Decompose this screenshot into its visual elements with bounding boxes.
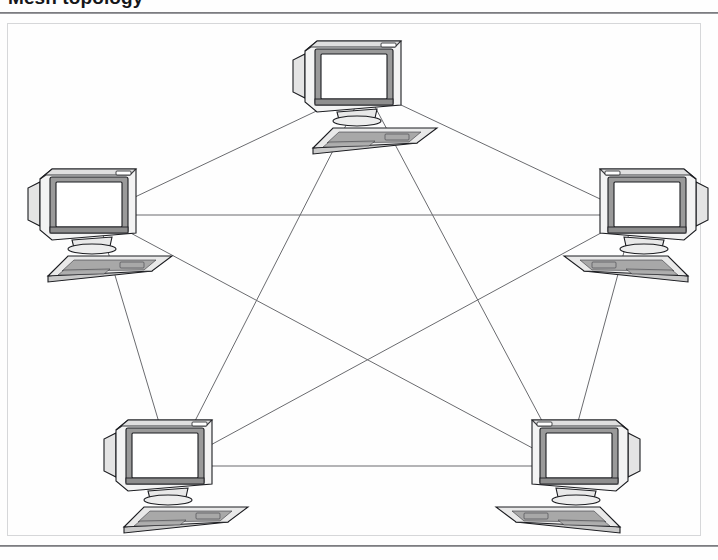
- mesh-node-group: [28, 41, 708, 533]
- node-right[interactable]: [564, 169, 708, 282]
- mesh-topology-diagram: [0, 0, 718, 560]
- figure-page: Mesh topology: [0, 0, 718, 560]
- node-left[interactable]: [28, 169, 172, 282]
- node-bottom-right[interactable]: [496, 420, 640, 533]
- node-top[interactable]: [293, 41, 437, 154]
- link-top-right: [365, 88, 634, 215]
